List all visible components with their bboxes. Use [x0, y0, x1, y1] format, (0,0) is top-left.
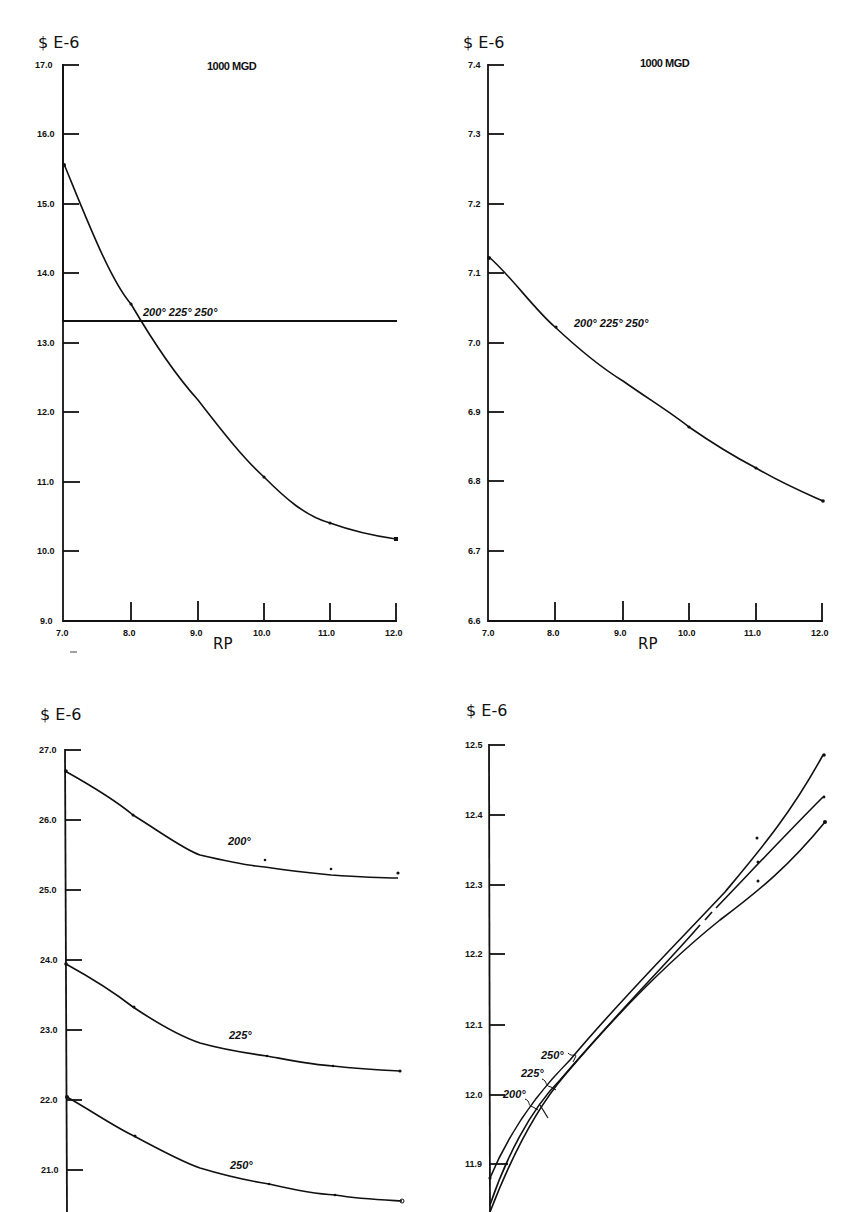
svg-text:12.2: 12.2 — [465, 949, 483, 959]
y-unit-label: $ E-6 — [466, 701, 507, 720]
svg-text:7.0: 7.0 — [56, 628, 69, 638]
svg-text:12.4: 12.4 — [465, 810, 483, 820]
svg-text:25.0: 25.0 — [39, 885, 57, 895]
svg-text:12.1: 12.1 — [465, 1020, 483, 1030]
chart-top-left: $ E-6 1000 MGD 17.0 16.0 15.0 14.0 13.0 … — [35, 33, 403, 653]
series-line-250 — [67, 1097, 402, 1201]
chart-bottom-right: $ E-6 12.5 12.4 12.3 12.2 12.1 12.0 11.9… — [465, 701, 827, 1212]
svg-text:8.0: 8.0 — [123, 628, 136, 638]
svg-text:9.0: 9.0 — [40, 616, 53, 626]
svg-text:12.0: 12.0 — [37, 407, 55, 417]
series-line-200 — [490, 822, 825, 1212]
y-ticks: 27.0 26.0 25.0 24.0 23.0 22.0 21.0 — [39, 745, 83, 1175]
svg-text:12.0: 12.0 — [465, 1090, 483, 1100]
svg-text:14.0: 14.0 — [37, 268, 55, 278]
svg-text:12.0: 12.0 — [385, 628, 403, 638]
svg-text:17.0: 17.0 — [35, 60, 53, 70]
svg-text:10.0: 10.0 — [678, 628, 696, 638]
series-line-all-temps — [64, 164, 396, 539]
svg-text:7.0: 7.0 — [482, 628, 495, 638]
svg-text:7.0: 7.0 — [468, 338, 481, 348]
y-ticks: 12.5 12.4 12.3 12.2 12.1 12.0 11.9 — [465, 740, 508, 1169]
svg-text:6.7: 6.7 — [468, 546, 481, 556]
svg-text:9.0: 9.0 — [614, 628, 627, 638]
svg-text:7.2: 7.2 — [468, 199, 481, 209]
svg-text:10.0: 10.0 — [37, 546, 55, 556]
series-label-200: 200° — [502, 1088, 526, 1100]
svg-text:8.0: 8.0 — [547, 628, 560, 638]
y-unit-label: $ E-6 — [463, 33, 504, 52]
figure-canvas: $ E-6 1000 MGD 17.0 16.0 15.0 14.0 13.0 … — [0, 0, 862, 1212]
svg-text:6.6: 6.6 — [468, 616, 481, 626]
svg-text:6.8: 6.8 — [468, 476, 481, 486]
series-label-225: 225° — [520, 1067, 544, 1079]
x-axis-title: RP — [638, 635, 657, 653]
svg-text:11.0: 11.0 — [318, 628, 335, 638]
series-label-250: 250° — [229, 1159, 253, 1171]
series-line-250 — [490, 755, 823, 1178]
svg-text:15.0: 15.0 — [37, 199, 55, 209]
series-annotation: 200° 225° 250° — [573, 317, 649, 329]
svg-text:11.9: 11.9 — [465, 1159, 482, 1169]
svg-text:13.0: 13.0 — [37, 338, 55, 348]
svg-text:7.4: 7.4 — [468, 60, 481, 70]
series-line-225 — [490, 797, 823, 1205]
y-axis — [65, 749, 67, 1212]
svg-text:27.0: 27.0 — [39, 745, 57, 755]
x-axis-title: RP — [213, 635, 232, 653]
svg-text:26.0: 26.0 — [39, 815, 57, 825]
chart-title: 1000 MGD — [640, 57, 690, 69]
svg-text:11.0: 11.0 — [37, 477, 54, 487]
svg-text:12.5: 12.5 — [465, 740, 483, 750]
series-line-225 — [66, 964, 400, 1071]
svg-text:9.0: 9.0 — [190, 628, 203, 638]
y-ticks: 7.4 7.3 7.2 7.1 7.0 6.9 6.8 6.7 6.6 — [468, 60, 504, 626]
y-unit-label: $ E-6 — [38, 33, 79, 52]
svg-text:23.0: 23.0 — [40, 1025, 58, 1035]
chart-title: 1000 MGD — [207, 60, 257, 72]
svg-text:12.0: 12.0 — [811, 628, 829, 638]
series-line-all-temps — [489, 257, 823, 501]
chart-top-left-plot: 200° 225° 250° — [62, 64, 398, 622]
chart-bottom-left: $ E-6 27.0 26.0 25.0 24.0 23.0 22.0 21.0… — [39, 705, 404, 1212]
y-ticks: 17.0 16.0 15.0 14.0 13.0 12.0 11.0 10.0 … — [35, 60, 80, 626]
y-unit-label: $ E-6 — [40, 705, 81, 724]
svg-text:11.0: 11.0 — [744, 628, 761, 638]
series-annotation: 200° 225° 250° — [142, 306, 218, 318]
svg-text:21.0: 21.0 — [41, 1165, 59, 1175]
svg-text:12.3: 12.3 — [465, 880, 483, 890]
svg-text:6.9: 6.9 — [468, 407, 481, 417]
svg-text:7.3: 7.3 — [468, 129, 481, 139]
series-label-250: 250° — [540, 1049, 564, 1061]
svg-text:10.0: 10.0 — [253, 628, 271, 638]
svg-text:16.0: 16.0 — [37, 129, 55, 139]
x-ticks: 7.0 8.0 9.0 10.0 11.0 12.0 — [482, 601, 829, 638]
svg-text:7.1: 7.1 — [468, 268, 481, 278]
svg-text:22.0: 22.0 — [40, 1095, 58, 1105]
chart-top-right: $ E-6 1000 MGD 7.4 7.3 7.2 7.1 7.0 6.9 6… — [463, 33, 829, 653]
svg-text:24.0: 24.0 — [40, 955, 58, 965]
series-label-200: 200° — [227, 835, 251, 847]
series-label-225: 225° — [228, 1029, 252, 1041]
x-ticks: 7.0 8.0 9.0 10.0 11.0 12.0 — [56, 601, 403, 638]
series-line-200 — [65, 771, 398, 878]
